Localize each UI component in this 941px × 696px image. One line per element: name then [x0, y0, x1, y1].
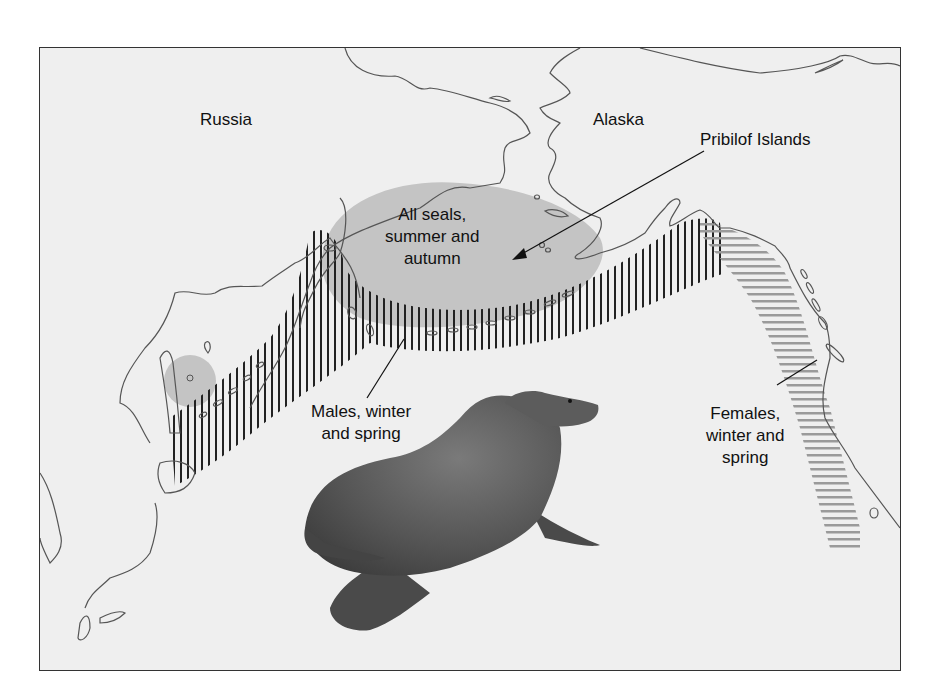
label-russia: Russia: [200, 109, 252, 131]
label-all-seals: All seals, summer and autumn: [385, 204, 479, 270]
all-seals-line-2: summer and: [385, 226, 479, 248]
label-pribilof-islands: Pribilof Islands: [700, 129, 811, 151]
map-frame: Russia Alaska Pribilof Islands All seals…: [39, 47, 901, 671]
males-line-1: Males, winter: [311, 401, 411, 423]
seal-eye: [568, 399, 572, 403]
males-line-2: and spring: [311, 423, 411, 445]
females-line-3: spring: [706, 447, 784, 469]
label-alaska: Alaska: [593, 109, 644, 131]
label-females: Females, winter and spring: [706, 403, 784, 469]
males-leader-line: [367, 339, 404, 398]
label-males: Males, winter and spring: [311, 401, 411, 445]
all-seals-line-3: autumn: [385, 248, 479, 270]
females-line-2: winter and: [706, 425, 784, 447]
all-seals-line-1: All seals,: [385, 204, 479, 226]
females-line-1: Females,: [706, 403, 784, 425]
